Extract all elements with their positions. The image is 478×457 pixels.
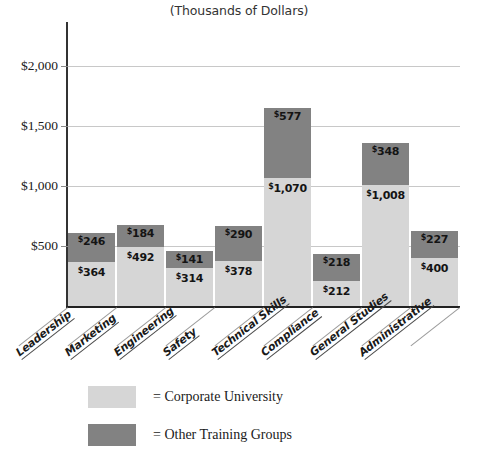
x-axis-label-safety[interactable]: Safety bbox=[161, 325, 200, 360]
bar-value-label-other: $218 bbox=[313, 256, 360, 269]
legend-label: = Other Training Groups bbox=[153, 427, 292, 443]
bar-stack[interactable]: $227$400 bbox=[411, 231, 458, 306]
legend-item[interactable]: = Corporate University bbox=[88, 386, 292, 408]
bar-value-label-other: $577 bbox=[264, 110, 311, 123]
bar-stack[interactable]: $290$378 bbox=[215, 226, 262, 306]
bar-stack[interactable]: $218$212 bbox=[313, 254, 360, 306]
bar-value-label-corporate: $1,008 bbox=[362, 189, 409, 202]
y-tick-label: $1,000 bbox=[21, 178, 58, 194]
bar-value-label-corporate: $1,070 bbox=[264, 182, 311, 195]
legend-item[interactable]: = Other Training Groups bbox=[88, 424, 292, 446]
bar-value-label-other: $227 bbox=[411, 233, 458, 246]
y-tick-label: $500 bbox=[31, 238, 58, 254]
y-tick-label: $2,000 bbox=[21, 58, 58, 74]
bar-value-label-corporate: $364 bbox=[68, 266, 115, 279]
bar-value-label-other: $290 bbox=[215, 228, 262, 241]
bar-value-label-other: $184 bbox=[117, 227, 164, 240]
y-tick-mark bbox=[61, 66, 68, 67]
bar-stack[interactable]: $577$1,070 bbox=[264, 108, 311, 306]
bar-segment-corporate-university[interactable] bbox=[264, 178, 311, 306]
bars-layer: $246$364$184$492$141$314$290$378$577$1,0… bbox=[68, 22, 460, 306]
x-axis-category-labels: LeadershipMarketingEngineeringSafetyTech… bbox=[68, 306, 478, 378]
y-tick-mark bbox=[61, 126, 68, 127]
bar-value-label-corporate: $378 bbox=[215, 265, 262, 278]
bar-value-label-corporate: $492 bbox=[117, 251, 164, 264]
bar-value-label-corporate: $212 bbox=[313, 285, 360, 298]
bar-stack[interactable]: $348$1,008 bbox=[362, 143, 409, 306]
chart-legend: = Corporate University= Other Training G… bbox=[88, 386, 292, 457]
bar-stack[interactable]: $141$314 bbox=[166, 251, 213, 306]
legend-label: = Corporate University bbox=[153, 389, 283, 405]
y-tick-mark bbox=[61, 186, 68, 187]
bar-value-label-corporate: $314 bbox=[166, 272, 213, 285]
legend-swatch bbox=[88, 424, 136, 446]
bar-value-label-other: $246 bbox=[68, 235, 115, 248]
bar-value-label-other: $348 bbox=[362, 145, 409, 158]
plot-area: $500$1,000$1,500$2,000 $246$364$184$492$… bbox=[68, 22, 460, 306]
bar-segment-corporate-university[interactable] bbox=[362, 185, 409, 306]
y-tick-mark bbox=[61, 246, 68, 247]
bar-value-label-corporate: $400 bbox=[411, 262, 458, 275]
chart-title: (Thousands of Dollars) bbox=[0, 3, 478, 18]
legend-swatch bbox=[88, 386, 136, 408]
y-tick-label: $1,500 bbox=[21, 118, 58, 134]
bar-stack[interactable]: $184$492 bbox=[117, 225, 164, 306]
bar-stack[interactable]: $246$364 bbox=[68, 233, 115, 306]
bar-value-label-other: $141 bbox=[166, 253, 213, 266]
chart-root: (Thousands of Dollars) $500$1,000$1,500$… bbox=[0, 0, 478, 457]
